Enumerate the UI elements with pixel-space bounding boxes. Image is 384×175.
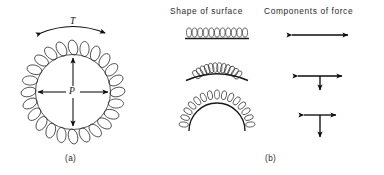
tension-arc-arrow bbox=[41, 27, 105, 34]
figure-canvas bbox=[0, 0, 384, 175]
dome-surface-line bbox=[189, 103, 245, 131]
force-row3 bbox=[304, 115, 336, 137]
coil-row-flat bbox=[187, 28, 248, 37]
curved-surface-line bbox=[186, 74, 248, 81]
column-header-components-of-force: Components of force bbox=[264, 7, 353, 15]
column-header-shape-of-surface: Shape of surface bbox=[170, 7, 243, 15]
force-arrows bbox=[292, 35, 348, 137]
tension-symbol-label: T bbox=[70, 17, 75, 27]
pressure-symbol-label: P bbox=[69, 87, 75, 97]
panel-b-row3-shape bbox=[179, 90, 255, 131]
panel-b-row1-shape bbox=[185, 28, 249, 39]
caption-panel-b: (b) bbox=[265, 155, 276, 163]
panel-b-row2-shape bbox=[186, 63, 248, 81]
force-row2 bbox=[298, 76, 342, 90]
caption-panel-a: (a) bbox=[65, 155, 76, 163]
figure-surface-tension: Shape of surface Components of force T P… bbox=[0, 0, 384, 175]
coil-row-curved bbox=[191, 63, 243, 81]
